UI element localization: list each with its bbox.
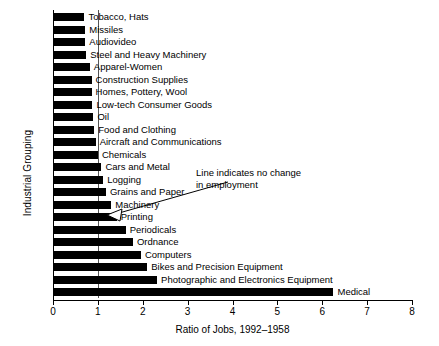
bar-label: Audiovideo bbox=[89, 36, 136, 47]
bar bbox=[53, 251, 141, 259]
x-axis-tick-label: 2 bbox=[132, 306, 154, 317]
bar-label: Aircraft and Communications bbox=[100, 136, 222, 147]
bar bbox=[53, 38, 85, 46]
bar-label: Construction Supplies bbox=[96, 74, 188, 85]
bar bbox=[53, 151, 98, 159]
bar bbox=[53, 263, 147, 271]
bar-label: Photographic and Electronics Equipment bbox=[161, 274, 333, 285]
bar-label: Bikes and Precision Equipment bbox=[151, 261, 283, 272]
bar bbox=[53, 176, 103, 184]
bar-label: Oil bbox=[97, 111, 109, 122]
x-axis-tick bbox=[188, 300, 189, 305]
bar bbox=[53, 138, 96, 146]
bar-label: Computers bbox=[145, 249, 191, 260]
bar-label: Ordnance bbox=[137, 236, 179, 247]
x-axis-tick bbox=[367, 300, 368, 305]
bar-label: Apparel-Women bbox=[94, 61, 162, 72]
bar bbox=[53, 113, 93, 121]
bar-label: Cars and Metal bbox=[105, 161, 169, 172]
x-axis-tick-label: 7 bbox=[356, 306, 378, 317]
x-axis-tick-label: 5 bbox=[266, 306, 288, 317]
x-axis-tick-label: 0 bbox=[42, 306, 64, 317]
bar bbox=[53, 88, 92, 96]
bar bbox=[53, 213, 117, 221]
bar bbox=[53, 288, 333, 296]
bar-label: Homes, Pottery, Wool bbox=[96, 86, 188, 97]
x-axis-tick-label: 6 bbox=[311, 306, 333, 317]
x-axis-tick-label: 1 bbox=[87, 306, 109, 317]
bar bbox=[53, 13, 84, 21]
x-axis-tick bbox=[98, 300, 99, 305]
bar bbox=[53, 226, 126, 234]
bar-label: Medical bbox=[337, 286, 370, 297]
bar-label: Low-tech Consumer Goods bbox=[96, 99, 212, 110]
x-axis-tick bbox=[233, 300, 234, 305]
bar bbox=[53, 51, 86, 59]
x-axis-tick-label: 8 bbox=[401, 306, 423, 317]
x-axis-tick bbox=[143, 300, 144, 305]
y-axis-title: Industrial Grouping bbox=[22, 0, 42, 346]
x-axis-tick-label: 3 bbox=[177, 306, 199, 317]
bar-label: Periodicals bbox=[130, 224, 176, 235]
bar-label: Steel and Heavy Machinery bbox=[90, 49, 206, 60]
annotation-line-1: Line indicates no change bbox=[196, 167, 301, 179]
x-axis-tick bbox=[412, 300, 413, 305]
x-axis-tick bbox=[53, 300, 54, 305]
bar bbox=[53, 238, 133, 246]
x-axis-tick bbox=[322, 300, 323, 305]
bar bbox=[53, 101, 92, 109]
x-axis-title: Ratio of Jobs, 1992–1958 bbox=[53, 324, 412, 335]
bar-label: Chemicals bbox=[102, 149, 146, 160]
plot-area: Tobacco, HatsMissilesAudiovideoSteel and… bbox=[53, 10, 412, 298]
bar bbox=[53, 63, 90, 71]
bar-label: Printing bbox=[121, 211, 153, 222]
x-axis-tick bbox=[277, 300, 278, 305]
bar-label: Missiles bbox=[89, 24, 123, 35]
bar bbox=[53, 26, 85, 34]
bar bbox=[53, 276, 157, 284]
bar-chart: Industrial Grouping Tobacco, HatsMissile… bbox=[0, 0, 439, 346]
bar-label: Tobacco, Hats bbox=[88, 11, 148, 22]
bar bbox=[53, 76, 92, 84]
annotation-text: Line indicates no change in employment bbox=[196, 167, 301, 190]
bar bbox=[53, 201, 111, 209]
bar-label: Food and Clothing bbox=[98, 124, 176, 135]
bar bbox=[53, 188, 106, 196]
bar bbox=[53, 163, 101, 171]
x-axis-tick-label: 4 bbox=[222, 306, 244, 317]
annotation-line-2: in employment bbox=[196, 179, 301, 191]
bar-label: Grains and Paper bbox=[110, 186, 184, 197]
bar-label: Machinery bbox=[115, 199, 159, 210]
bar bbox=[53, 126, 94, 134]
bar-label: Logging bbox=[107, 174, 141, 185]
